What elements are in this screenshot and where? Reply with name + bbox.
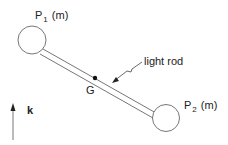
k-axis-label: k	[27, 105, 33, 116]
light-rod	[40, 49, 156, 118]
particle-p1	[18, 26, 46, 54]
k-axis-arrowhead	[11, 103, 16, 111]
leader-arrow	[114, 62, 142, 81]
p2-mass: (m)	[201, 99, 218, 111]
p2-name: P	[184, 99, 191, 111]
particle-p2	[153, 105, 180, 132]
p1-subscript: 1	[43, 15, 47, 24]
p1-name: P	[35, 9, 42, 21]
rod-label: light rod	[144, 56, 183, 67]
particle-p1-label: P1 (m)	[35, 10, 68, 22]
particle-p2-label: P2 (m)	[184, 100, 217, 112]
center-of-mass-dot	[93, 76, 97, 80]
p2-subscript: 2	[192, 105, 196, 114]
p1-mass: (m)	[52, 9, 69, 21]
center-of-mass-label: G	[86, 85, 95, 96]
